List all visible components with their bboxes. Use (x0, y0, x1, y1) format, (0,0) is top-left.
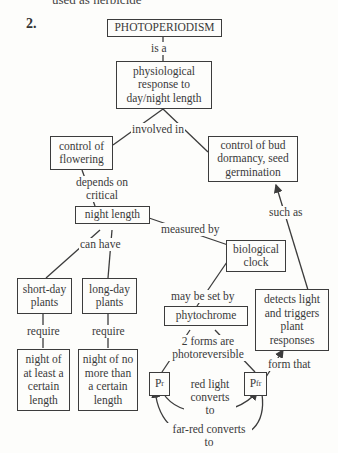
link-may-be-set-by: may be set by (170, 290, 236, 303)
concept-control-flowering: control of flowering (50, 136, 113, 170)
link-is-a: is a (150, 42, 168, 55)
link-require-short: require (26, 325, 61, 338)
concept-night-at-least: night of at least a certain length (17, 349, 70, 411)
link-far-red-converts-to: far-red converts to (166, 423, 252, 449)
link-red-light-converts-to: red light converts to (184, 378, 236, 417)
pfr-subscript: fr (256, 377, 261, 391)
concept-pfr: Pfr (244, 372, 267, 396)
link-measured-by: measured by (160, 223, 220, 236)
link-can-have: can have (79, 238, 122, 251)
concept-night-no-more: night of no more than a certain length (78, 349, 138, 411)
concept-control-dormancy: control of bud dormancy, seed germinatio… (208, 136, 298, 182)
link-depends-on-critical: depends on critical (70, 176, 134, 202)
link-require-long: require (91, 325, 126, 338)
concept-biological-clock: biological clock (226, 240, 286, 272)
concept-phytochrome: phytochrome (164, 306, 248, 326)
concept-detects-light: detects light and triggers plant respons… (255, 289, 329, 351)
pr-subscript: r (161, 377, 164, 391)
concept-long-day-plants: long-day plants (82, 278, 137, 314)
concept-photoperiodism: PHOTOPERIODISM (107, 19, 222, 37)
concept-short-day-plants: short-day plants (17, 278, 72, 314)
link-form-that: form that (267, 358, 311, 371)
link-such-as: such as (268, 206, 304, 219)
concept-physiological-response: physiological response to day/night leng… (116, 61, 212, 109)
link-two-forms-photoreversible: 2 forms are photoreversible (166, 335, 250, 361)
link-involved-in: involved in (131, 123, 185, 136)
concept-pr: Pr (149, 372, 170, 396)
concept-night-length: night length (75, 206, 150, 224)
